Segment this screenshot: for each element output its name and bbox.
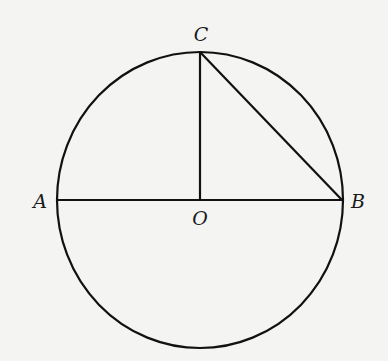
label-point-c: C <box>194 25 209 44</box>
label-point-o: O <box>192 209 208 228</box>
label-point-b: B <box>351 192 365 211</box>
chord-cb <box>200 52 342 200</box>
geometry-figure <box>0 0 388 361</box>
diagram-canvas: C A B O <box>0 0 388 361</box>
label-point-a: A <box>33 192 47 211</box>
